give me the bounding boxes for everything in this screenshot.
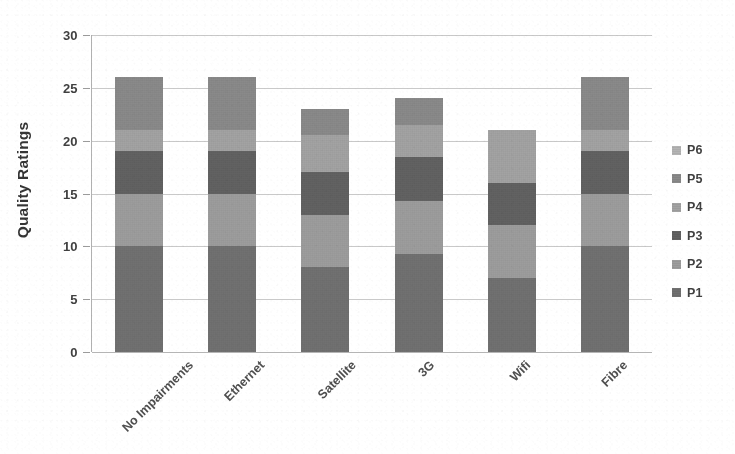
- bar-segment-p5[interactable]: [395, 98, 443, 124]
- legend-item-p2[interactable]: P2: [672, 250, 730, 279]
- bar-segment-p3[interactable]: [115, 151, 163, 193]
- legend-label: P4: [687, 200, 703, 214]
- legend-label: P5: [687, 172, 703, 186]
- x-axis-tick-label: No Impairments: [119, 358, 196, 435]
- bar-slot: [465, 35, 558, 352]
- stacked-bar[interactable]: [488, 130, 536, 352]
- bar-group: [92, 35, 652, 352]
- y-axis-title: Quality Ratings: [6, 0, 40, 360]
- bar-slot: [185, 35, 278, 352]
- bar-segment-p1[interactable]: [208, 246, 256, 352]
- legend-label: P3: [687, 229, 703, 243]
- bar-segment-p3[interactable]: [581, 151, 629, 193]
- x-axis-tick-label: 3G: [415, 358, 437, 380]
- legend-swatch-icon: [672, 203, 681, 212]
- stacked-bar[interactable]: [208, 77, 256, 352]
- bar-segment-p4[interactable]: [115, 130, 163, 151]
- y-axis-tick-label: 0: [70, 345, 86, 360]
- y-axis-tick-label: 30: [63, 28, 86, 43]
- bar-slot: [279, 35, 372, 352]
- bar-slot: [92, 35, 185, 352]
- y-axis-tick-label: 10: [63, 239, 86, 254]
- bar-segment-p5[interactable]: [115, 77, 163, 130]
- x-label-slot: Wifi: [465, 352, 558, 452]
- legend-label: P1: [687, 286, 703, 300]
- stacked-bar[interactable]: [581, 77, 629, 352]
- bar-segment-p3[interactable]: [395, 157, 443, 201]
- bar-segment-p2[interactable]: [581, 194, 629, 247]
- bar-segment-p2[interactable]: [395, 201, 443, 254]
- bar-segment-p1[interactable]: [488, 278, 536, 352]
- legend-swatch-icon: [672, 260, 681, 269]
- chart-figure: Quality Ratings 051015202530 No Impairme…: [0, 0, 735, 454]
- bar-segment-p3[interactable]: [301, 172, 349, 214]
- y-axis-tick-label: 15: [63, 186, 86, 201]
- bar-segment-p5[interactable]: [301, 109, 349, 135]
- plot-area: 051015202530: [92, 35, 652, 352]
- bar-segment-p2[interactable]: [208, 194, 256, 247]
- x-label-slot: Satellite: [279, 352, 372, 452]
- x-label-slot: Fibre: [559, 352, 652, 452]
- y-axis-tick-label: 20: [63, 133, 86, 148]
- x-axis-tick-label: Fibre: [599, 358, 631, 390]
- x-axis-tick-label: Wifi: [507, 358, 533, 384]
- bar-segment-p1[interactable]: [301, 267, 349, 352]
- legend-item-p5[interactable]: P5: [672, 165, 730, 194]
- bar-segment-p4[interactable]: [301, 135, 349, 172]
- x-axis-tick-label: Satellite: [315, 358, 359, 402]
- legend-swatch-icon: [672, 231, 681, 240]
- bar-segment-p4[interactable]: [208, 130, 256, 151]
- legend-label: P6: [687, 143, 703, 157]
- x-label-slot: 3G: [372, 352, 465, 452]
- legend-item-p3[interactable]: P3: [672, 222, 730, 251]
- bar-segment-p1[interactable]: [581, 246, 629, 352]
- x-axis-labels: No ImpairmentsEthernetSatellite3GWifiFib…: [92, 352, 652, 452]
- stacked-bar[interactable]: [395, 98, 443, 352]
- bar-segment-p1[interactable]: [115, 246, 163, 352]
- stacked-bar[interactable]: [301, 109, 349, 352]
- y-axis-tick-label: 5: [70, 292, 86, 307]
- legend-item-p1[interactable]: P1: [672, 279, 730, 308]
- y-axis-title-text: Quality Ratings: [14, 122, 32, 239]
- x-axis-tick-label: Ethernet: [221, 358, 267, 404]
- y-axis-tick-label: 25: [63, 80, 86, 95]
- legend: P6P5P4P3P2P1: [672, 136, 730, 307]
- legend-swatch-icon: [672, 288, 681, 297]
- bar-segment-p2[interactable]: [115, 194, 163, 247]
- x-label-slot: No Impairments: [92, 352, 185, 452]
- bar-slot: [559, 35, 652, 352]
- bar-segment-p4[interactable]: [395, 125, 443, 157]
- stacked-bar[interactable]: [115, 77, 163, 352]
- legend-label: P2: [687, 257, 703, 271]
- bar-segment-p4[interactable]: [581, 130, 629, 151]
- bar-segment-p3[interactable]: [208, 151, 256, 193]
- bar-segment-p5[interactable]: [208, 77, 256, 130]
- legend-item-p4[interactable]: P4: [672, 193, 730, 222]
- bar-segment-p5[interactable]: [581, 77, 629, 130]
- bar-segment-p1[interactable]: [395, 254, 443, 352]
- bar-segment-p2[interactable]: [488, 225, 536, 278]
- legend-swatch-icon: [672, 146, 681, 155]
- bar-segment-p4[interactable]: [488, 130, 536, 183]
- legend-swatch-icon: [672, 174, 681, 183]
- x-label-slot: Ethernet: [185, 352, 278, 452]
- bar-slot: [372, 35, 465, 352]
- bar-segment-p3[interactable]: [488, 183, 536, 225]
- bar-segment-p2[interactable]: [301, 215, 349, 268]
- legend-item-p6[interactable]: P6: [672, 136, 730, 165]
